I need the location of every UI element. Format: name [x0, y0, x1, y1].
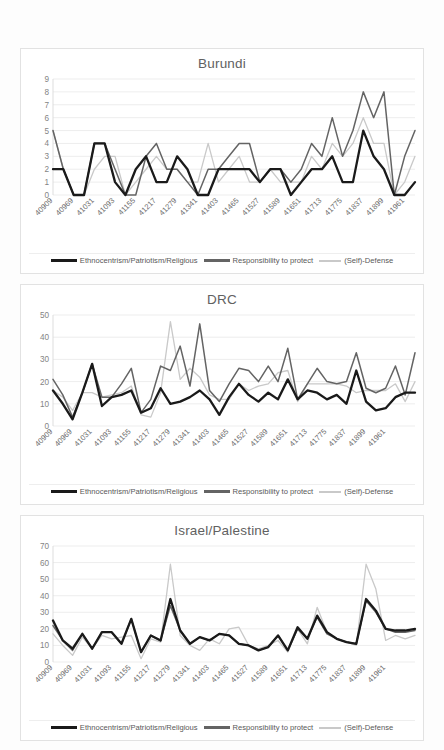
- legend-label-ethnocentrism: Ethnocentrism/Patriotism/Religious: [80, 487, 198, 496]
- legend-swatch-ethnocentrism: [51, 726, 77, 729]
- plot-area-burundi: 0123456789409094096941031410934115541217…: [21, 73, 423, 253]
- x-tick-label: 41651: [268, 663, 289, 684]
- x-tick-label: 41961: [366, 663, 387, 684]
- x-tick-label: 41775: [323, 196, 344, 217]
- y-tick-label: 4: [44, 139, 49, 148]
- series-line: [53, 564, 415, 658]
- x-tick-label: 41341: [170, 663, 191, 684]
- x-tick-label: 41651: [268, 427, 289, 448]
- legend-label-ethnocentrism: Ethnocentrism/Patriotism/Religious: [80, 256, 198, 265]
- x-tick-label: 41341: [178, 196, 199, 217]
- x-tick-label: 41093: [92, 427, 113, 448]
- x-tick-label: 40969: [53, 427, 74, 448]
- y-tick-label: 8: [44, 88, 49, 97]
- x-tick-label: 41279: [151, 663, 172, 684]
- x-tick-label: 41031: [72, 427, 93, 448]
- x-tick-label: 41155: [112, 427, 133, 448]
- x-tick-label: 41713: [302, 196, 323, 217]
- line-chart-drc: 0102030405040909409694103141093411554121…: [21, 309, 421, 484]
- chart-title-drc: DRC: [21, 285, 423, 309]
- x-tick-label: 41465: [209, 663, 230, 684]
- x-tick-label: 41837: [327, 427, 348, 448]
- x-tick-label: 41527: [229, 663, 250, 684]
- y-tick-label: 5: [44, 127, 49, 136]
- legend-item-selfdefense: (Self)-Defense: [319, 487, 393, 496]
- legend-item-responsibility: Responsibility to protect: [204, 487, 314, 496]
- x-tick-label: 41899: [346, 427, 367, 448]
- legend-item-ethnocentrism: Ethnocentrism/Patriotism/Religious: [51, 487, 198, 496]
- legend-item-selfdefense: (Self)-Defense: [319, 256, 393, 265]
- x-tick-label: 41093: [95, 196, 116, 217]
- legend-swatch-selfdefense: [319, 260, 341, 262]
- x-tick-label: 41031: [74, 196, 95, 217]
- y-tick-label: 7: [44, 101, 49, 110]
- legend-drc: Ethnocentrism/Patriotism/Religious Respo…: [29, 484, 415, 504]
- legend-swatch-selfdefense: [319, 727, 341, 729]
- x-tick-label: 40909: [33, 196, 54, 217]
- legend-item-ethnocentrism: Ethnocentrism/Patriotism/Religious: [51, 256, 198, 265]
- legend-item-responsibility: Responsibility to protect: [204, 256, 314, 265]
- plot-area-drc: 0102030405040909409694103141093411554121…: [21, 309, 423, 484]
- legend-label-responsibility: Responsibility to protect: [233, 723, 314, 732]
- legend-item-selfdefense: (Self)-Defense: [319, 723, 393, 732]
- x-tick-label: 41217: [131, 663, 152, 684]
- legend-swatch-responsibility: [204, 490, 230, 493]
- x-tick-label: 41279: [151, 427, 172, 448]
- y-tick-label: 10: [40, 641, 50, 650]
- chart-card-israel-palestine: Israel/Palestine 01020304050607040909409…: [20, 515, 424, 741]
- x-tick-label: 41589: [248, 663, 269, 684]
- x-tick-label: 41961: [385, 196, 406, 217]
- x-tick-label: 41899: [346, 663, 367, 684]
- legend-swatch-ethnocentrism: [51, 490, 77, 493]
- x-tick-label: 41589: [261, 196, 282, 217]
- y-tick-label: 1: [44, 178, 49, 187]
- y-tick-label: 50: [40, 575, 50, 584]
- line-chart-israel-palestine: 0102030405060704090940969410314109341155…: [21, 540, 421, 720]
- chart-card-burundi: Burundi 01234567894090940969410314109341…: [20, 48, 424, 274]
- x-tick-label: 41589: [248, 427, 269, 448]
- x-tick-label: 41713: [287, 427, 308, 448]
- legend-label-selfdefense: (Self)-Defense: [344, 723, 393, 732]
- x-tick-label: 41217: [137, 196, 158, 217]
- x-tick-label: 41093: [92, 663, 113, 684]
- legend-label-responsibility: Responsibility to protect: [233, 487, 314, 496]
- y-tick-label: 6: [44, 114, 49, 123]
- y-tick-label: 70: [40, 542, 50, 551]
- y-tick-label: 30: [40, 608, 50, 617]
- x-tick-label: 41403: [190, 427, 211, 448]
- chart-card-drc: DRC 010203040504090940969410314109341155…: [20, 284, 424, 505]
- line-chart-burundi: 0123456789409094096941031410934115541217…: [21, 73, 421, 253]
- legend-item-responsibility: Responsibility to protect: [204, 723, 314, 732]
- y-tick-label: 10: [40, 400, 50, 409]
- x-tick-label: 41961: [366, 427, 387, 448]
- x-tick-label: 41155: [112, 663, 133, 684]
- y-tick-label: 20: [40, 378, 50, 387]
- chart-title-israel-palestine: Israel/Palestine: [21, 516, 423, 540]
- legend-burundi: Ethnocentrism/Patriotism/Religious Respo…: [29, 253, 415, 273]
- y-tick-label: 60: [40, 559, 50, 568]
- y-tick-label: 40: [40, 333, 50, 342]
- x-tick-label: 41775: [307, 427, 328, 448]
- chart-title-burundi: Burundi: [21, 49, 423, 73]
- x-tick-label: 40969: [53, 663, 74, 684]
- x-tick-label: 40909: [33, 663, 54, 684]
- y-tick-label: 50: [40, 311, 50, 320]
- y-tick-label: 20: [40, 625, 50, 634]
- plot-area-israel-palestine: 0102030405060704090940969410314109341155…: [21, 540, 423, 720]
- x-tick-label: 41403: [190, 663, 211, 684]
- x-tick-label: 41713: [287, 663, 308, 684]
- y-tick-label: 3: [44, 152, 49, 161]
- x-tick-label: 41403: [199, 196, 220, 217]
- x-tick-label: 41837: [327, 663, 348, 684]
- x-tick-label: 41217: [131, 427, 152, 448]
- y-tick-label: 2: [44, 165, 49, 174]
- y-tick-label: 40: [40, 592, 50, 601]
- legend-label-responsibility: Responsibility to protect: [233, 256, 314, 265]
- x-tick-label: 41527: [229, 427, 250, 448]
- legend-item-ethnocentrism: Ethnocentrism/Patriotism/Religious: [51, 723, 198, 732]
- x-tick-label: 41465: [219, 196, 240, 217]
- x-tick-label: 41899: [364, 196, 385, 217]
- legend-israel-palestine: Ethnocentrism/Patriotism/Religious Respo…: [29, 720, 415, 740]
- y-tick-label: 9: [44, 75, 49, 84]
- x-tick-label: 41651: [281, 196, 302, 217]
